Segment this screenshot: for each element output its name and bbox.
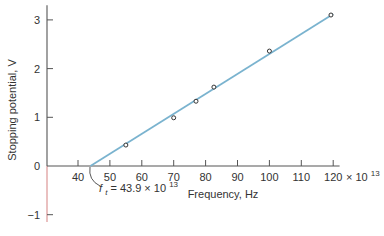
x-axis-label: Frequency, Hz bbox=[188, 188, 259, 200]
data-point bbox=[194, 99, 198, 103]
stopping-potential-chart: 405060708090100110120 −10123 Frequency, … bbox=[0, 0, 384, 236]
y-tick-label: −1 bbox=[27, 209, 40, 221]
x-tick-label: 100 bbox=[260, 171, 278, 183]
data-series bbox=[90, 13, 333, 166]
y-tick-label: 1 bbox=[34, 111, 40, 123]
data-point bbox=[267, 49, 271, 53]
data-point bbox=[124, 143, 128, 147]
svg-text:× 10 13: × 10 13 bbox=[346, 169, 380, 183]
y-tick-label: 0 bbox=[34, 160, 40, 172]
svg-text:f t = 43.9 × 10: f t = 43.9 × 10 13 bbox=[99, 180, 179, 197]
x-multiplier-label: × 10 13 bbox=[346, 169, 380, 183]
x-tick-label: 40 bbox=[72, 171, 84, 183]
data-point bbox=[329, 13, 333, 17]
x-ticks: 405060708090100110120 bbox=[72, 160, 343, 183]
data-point bbox=[172, 116, 176, 120]
y-tick-label: 3 bbox=[34, 14, 40, 26]
x-tick-label: 120 bbox=[324, 171, 342, 183]
y-tick-label: 2 bbox=[34, 63, 40, 75]
y-ticks: −10123 bbox=[27, 14, 53, 221]
data-point bbox=[212, 85, 216, 89]
x-tick-label: 110 bbox=[293, 171, 311, 183]
x-tick-label: 80 bbox=[199, 171, 211, 183]
x-tick-label: 90 bbox=[231, 171, 243, 183]
y-axis-label: Stopping potential, V bbox=[6, 59, 18, 161]
